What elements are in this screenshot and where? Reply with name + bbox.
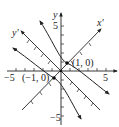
x-tick-neg5-label: −5 (4, 72, 15, 83)
origin-point (60, 70, 63, 73)
point-1-0 (65, 61, 69, 65)
y-axis-label: y (52, 9, 58, 20)
y-prime-label: y′ (11, 27, 19, 38)
x-tick-5-label: 5 (103, 72, 108, 83)
y-tick-neg5-label: −5 (50, 112, 61, 123)
hyperbola-diagram: y 5 −5 −5 5 x′ y′ (1, 0) (−1, 0) (0, 0, 119, 127)
point-neg1-0 (52, 76, 56, 80)
x-prime-label: x′ (96, 17, 104, 28)
point-neg1-0-label: (−1, 0) (22, 72, 49, 84)
point-1-0-label: (1, 0) (72, 57, 94, 69)
y-tick-5-label: 5 (53, 20, 58, 31)
